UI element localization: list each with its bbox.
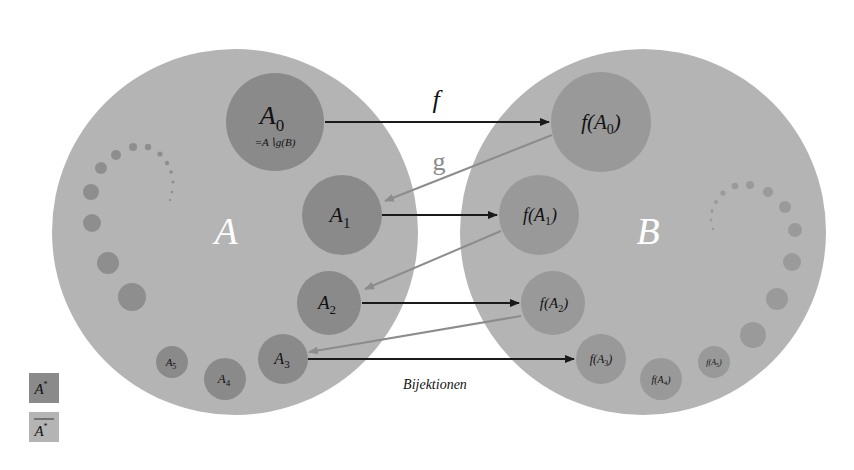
- legend: A* A*: [29, 373, 59, 442]
- svg-text:f(A0): f(A0): [581, 110, 621, 137]
- caption-bijections: Bijektionen: [403, 377, 467, 392]
- subset-a1: A1: [302, 175, 382, 255]
- legend-item-a-star: A*: [29, 373, 59, 403]
- g-label: g: [433, 147, 446, 176]
- f-label: f: [432, 85, 443, 114]
- subset-fa2: f(A2): [521, 271, 585, 335]
- legend-item-a-star-complement: A*: [29, 412, 59, 442]
- subset-fa4: f(A4): [640, 358, 682, 400]
- subset-a2: A2: [297, 271, 361, 335]
- subset-a5: A5: [156, 346, 188, 378]
- subset-fa3: f(A3): [576, 334, 626, 384]
- subset-a0: A0 =A∖g(B): [226, 73, 324, 171]
- svg-text:f(A3): f(A3): [590, 352, 613, 368]
- subset-fa0: f(A0): [551, 72, 651, 172]
- set-a-label: A: [211, 210, 238, 252]
- set-b-label: B: [636, 210, 659, 252]
- bijection-diagram: A B A0: [0, 0, 854, 470]
- svg-text:f(A5): f(A5): [706, 358, 722, 368]
- subset-a4: A4: [204, 358, 246, 400]
- svg-text:f(A1): f(A1): [523, 205, 557, 228]
- subset-fa5: f(A5): [698, 346, 730, 378]
- a0-definition: =A∖g(B): [255, 136, 296, 149]
- subset-fa1: f(A1): [499, 175, 579, 255]
- subset-a3: A3: [258, 334, 308, 384]
